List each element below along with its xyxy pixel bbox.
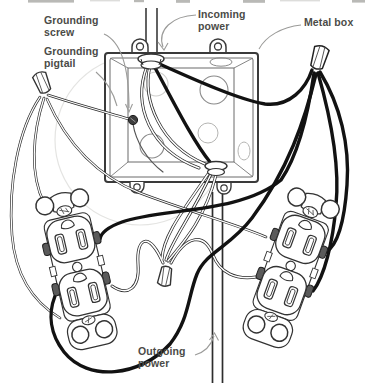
cable-clamp-bottom	[205, 162, 227, 176]
box-ear-top-left	[132, 39, 148, 54]
leader-metal-box	[259, 25, 301, 49]
wire-nut-neutral	[157, 265, 173, 287]
box-ear-top-right	[210, 39, 226, 54]
wire-nut-ground	[32, 70, 53, 95]
diagram: Grounding screw Grounding pigtail Incomi…	[0, 0, 365, 383]
duplex-receptacle-right	[235, 185, 344, 353]
cropped-text-artifact	[28, 0, 365, 3]
leader-incoming-power	[162, 15, 196, 47]
label-grounding-screw: Grounding screw	[44, 15, 108, 38]
label-outgoing-power: Outgoing power	[138, 346, 198, 369]
label-incoming-power: Incoming power	[198, 9, 258, 32]
box-ear-bottom-right	[217, 183, 231, 194]
wire-nut-hot	[309, 44, 330, 71]
label-metal-box: Metal box	[304, 17, 353, 29]
grounding-screw	[128, 115, 137, 124]
cable-clamp-top	[138, 54, 164, 69]
label-grounding-pigtail: Grounding pigtail	[44, 46, 108, 69]
duplex-receptacle-left	[32, 187, 124, 354]
